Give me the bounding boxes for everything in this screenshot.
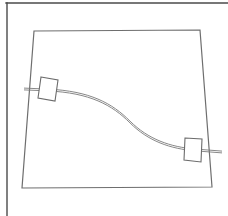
line-drawing [0, 0, 228, 216]
right-connector-block [184, 138, 202, 162]
drawing-canvas [0, 0, 228, 216]
left-connector-block [38, 77, 58, 101]
perspective-panel [22, 30, 212, 188]
